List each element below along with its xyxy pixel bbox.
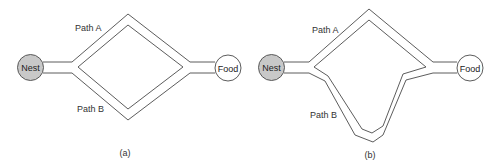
panel-a-nest-label: Nest [21, 63, 40, 73]
panel-b-food-label: Food [460, 64, 481, 74]
panel-a-caption: (a) [120, 148, 131, 158]
panel-a-path-a-outer [72, 14, 190, 62]
panel-a-path-a-label: Path A [75, 23, 102, 33]
panel-b-path-a-outer [309, 9, 433, 62]
panel-b-nest-label: Nest [262, 63, 281, 73]
panel-a-food-label: Food [218, 64, 239, 74]
panel-b-path-b-label: Path B [310, 110, 337, 120]
panel-a-inner-island [78, 25, 183, 109]
panel-b-path-b-outer [309, 73, 433, 142]
panel-b-path-a-label: Path A [312, 25, 339, 35]
panel-a: Nest Food Path A Path B (a) [18, 14, 242, 158]
ant-path-diagram: Nest Food Path A Path B (a) Nest Food Pa… [0, 0, 499, 168]
panel-b-caption: (b) [365, 150, 376, 160]
panel-b: Nest Food Path A Path B (b) [259, 9, 484, 160]
panel-a-path-b-label: Path B [77, 104, 104, 114]
